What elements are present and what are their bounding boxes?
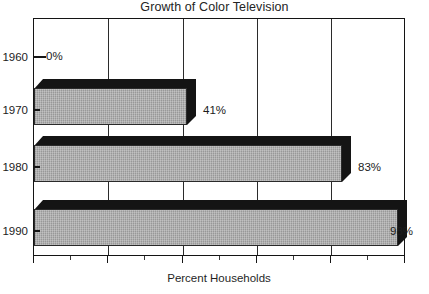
xtick-20 — [107, 256, 108, 263]
bar-1980 — [34, 145, 342, 182]
bar-side-face-1990 — [398, 200, 407, 246]
xtick-100 — [404, 256, 405, 263]
bar-front-face-1970 — [34, 88, 187, 125]
category-label-1960: 1960 — [0, 51, 28, 63]
category-tick-1970 — [33, 109, 40, 111]
category-label-1970: 1970 — [0, 104, 28, 116]
xtick-70 — [293, 256, 294, 260]
bar-1970 — [34, 88, 187, 125]
category-tick-1980 — [33, 166, 40, 168]
bar-value-1980: 83% — [358, 161, 381, 173]
xtick-30 — [144, 256, 145, 260]
chart-title: Growth of Color Television — [0, 0, 429, 14]
bar-front-face-1980 — [34, 145, 342, 182]
category-label-1990: 1990 — [0, 225, 28, 237]
xtick-40 — [182, 256, 183, 263]
bar-chart: Growth of Color Television 1960 0% 1970 … — [0, 0, 429, 294]
category-label-1980: 1980 — [0, 161, 28, 173]
xtick-10 — [70, 256, 71, 260]
xtick-0 — [33, 256, 34, 263]
bar-front-face-1990 — [34, 209, 398, 246]
xtick-50 — [219, 256, 220, 260]
x-axis-label: Percent Households — [33, 272, 405, 284]
xtick-60 — [256, 256, 257, 263]
bar-value-1990: 98% — [390, 225, 413, 237]
category-tick-1990 — [33, 230, 40, 232]
xtick-90 — [367, 256, 368, 260]
bar-value-1960: 0% — [46, 50, 63, 62]
xtick-80 — [330, 256, 331, 263]
bar-1990 — [34, 209, 398, 246]
category-tick-1960 — [33, 56, 40, 58]
bar-value-1970: 41% — [203, 104, 226, 116]
